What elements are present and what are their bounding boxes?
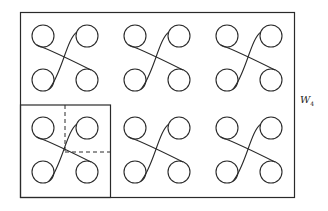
motif-circle	[168, 69, 190, 91]
group-label: W4	[300, 94, 314, 107]
motif-circle	[76, 161, 98, 183]
motif	[216, 117, 282, 183]
motif-circle	[76, 25, 98, 47]
unit-cell-frame	[21, 105, 111, 198]
motif-circle	[76, 69, 98, 91]
motif-circle	[32, 117, 54, 139]
motif-circle	[260, 161, 282, 183]
motif-circle	[216, 25, 238, 47]
wallpaper-diagram	[0, 0, 328, 211]
motif	[32, 25, 98, 91]
group-label-subscript: 4	[310, 100, 314, 107]
motif-circle	[216, 117, 238, 139]
motif-circle	[260, 25, 282, 47]
motif-circle	[32, 25, 54, 47]
motif	[216, 25, 282, 91]
motif-circle	[168, 161, 190, 183]
motif-group	[32, 25, 282, 183]
motif-circle	[168, 25, 190, 47]
motif-circle	[260, 69, 282, 91]
motif-circle	[76, 117, 98, 139]
motif-circle	[168, 117, 190, 139]
motif-circle	[124, 25, 146, 47]
motif-circle	[260, 117, 282, 139]
motif-circle	[124, 117, 146, 139]
motif	[124, 117, 190, 183]
motif	[124, 25, 190, 91]
group-label-letter: W	[300, 94, 310, 105]
